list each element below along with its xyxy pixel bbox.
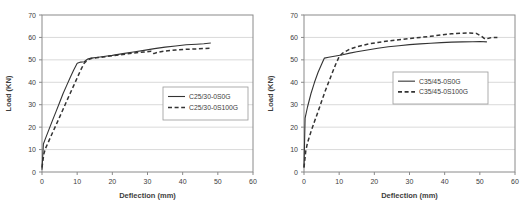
svg-text:10: 10 bbox=[73, 178, 81, 185]
svg-text:20: 20 bbox=[28, 124, 36, 131]
svg-text:40: 40 bbox=[179, 178, 187, 185]
load-deflection-figure: 0102030405060010203040506070Deflection (… bbox=[0, 0, 524, 204]
svg-text:40: 40 bbox=[290, 79, 298, 86]
chart-c35-45-panel: 0102030405060010203040506070Deflection (… bbox=[262, 0, 524, 204]
svg-text:0: 0 bbox=[40, 178, 44, 185]
svg-text:40: 40 bbox=[441, 178, 449, 185]
legend-label: C25/30-0S0G bbox=[189, 93, 231, 100]
svg-text:0: 0 bbox=[302, 178, 306, 185]
y-axis-label: Load (KN) bbox=[266, 75, 275, 111]
svg-text:10: 10 bbox=[335, 178, 343, 185]
legend-label: C25/30-0S100G bbox=[189, 104, 238, 111]
svg-text:50: 50 bbox=[290, 56, 298, 63]
svg-text:10: 10 bbox=[28, 146, 36, 153]
svg-text:30: 30 bbox=[144, 178, 152, 185]
svg-text:60: 60 bbox=[290, 34, 298, 41]
legend: C25/30-0S0GC25/30-0S100G bbox=[163, 87, 248, 120]
svg-text:70: 70 bbox=[290, 12, 298, 19]
chart-c25-30: 0102030405060010203040506070Deflection (… bbox=[0, 0, 262, 204]
y-axis-label: Load (KN) bbox=[4, 75, 13, 111]
svg-text:0: 0 bbox=[32, 169, 36, 176]
legend-label: C35/45-0S0G bbox=[419, 78, 461, 85]
chart-c25-30-panel: 0102030405060010203040506070Deflection (… bbox=[0, 0, 262, 204]
svg-text:60: 60 bbox=[249, 178, 257, 185]
svg-text:20: 20 bbox=[108, 178, 116, 185]
svg-text:60: 60 bbox=[511, 178, 519, 185]
x-axis-label: Deflection (mm) bbox=[119, 191, 176, 200]
svg-text:60: 60 bbox=[28, 34, 36, 41]
chart-c35-45: 0102030405060010203040506070Deflection (… bbox=[262, 0, 524, 204]
svg-text:50: 50 bbox=[476, 178, 484, 185]
svg-text:40: 40 bbox=[28, 79, 36, 86]
svg-text:30: 30 bbox=[406, 178, 414, 185]
svg-text:30: 30 bbox=[28, 101, 36, 108]
legend-label: C35/45-0S100G bbox=[419, 88, 468, 95]
legend: C35/45-0S0GC35/45-0S100G bbox=[393, 72, 488, 104]
svg-text:10: 10 bbox=[290, 146, 298, 153]
svg-text:50: 50 bbox=[214, 178, 222, 185]
svg-text:30: 30 bbox=[290, 101, 298, 108]
svg-text:20: 20 bbox=[370, 178, 378, 185]
svg-text:50: 50 bbox=[28, 56, 36, 63]
svg-text:0: 0 bbox=[294, 169, 298, 176]
x-axis-label: Deflection (mm) bbox=[381, 191, 438, 200]
svg-text:20: 20 bbox=[290, 124, 298, 131]
svg-text:70: 70 bbox=[28, 12, 36, 19]
